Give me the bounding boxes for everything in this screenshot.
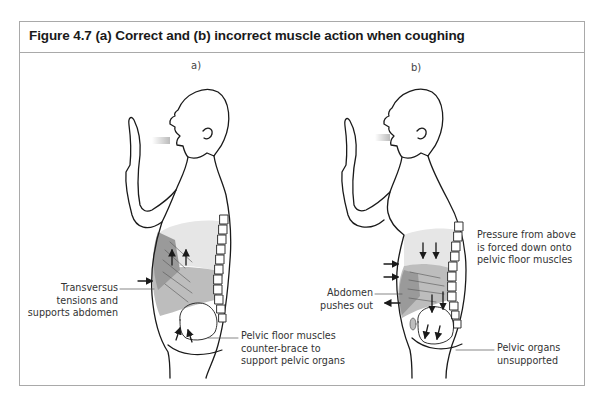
figure-title: Figure 4.7 (a) Correct and (b) incorrect… bbox=[29, 28, 465, 43]
figure-header: Figure 4.7 (a) Correct and (b) incorrect… bbox=[20, 22, 584, 53]
annotation-abdomen-pushes-out: Abdomen pushes out bbox=[300, 287, 373, 312]
annotation-pressure-from-above: Pressure from above is forced down onto … bbox=[477, 229, 576, 267]
panel-label-a: a) bbox=[191, 60, 201, 71]
panel-label-b: b) bbox=[411, 62, 421, 73]
annotation-pelvic-organs-unsupported: Pelvic organs unsupported bbox=[497, 342, 560, 367]
annotation-pelvic-floor-counter-brace: Pelvic floor muscles counter-brace to su… bbox=[241, 330, 345, 368]
annotation-transversus: Transversus tensions and supports abdome… bbox=[20, 282, 118, 320]
